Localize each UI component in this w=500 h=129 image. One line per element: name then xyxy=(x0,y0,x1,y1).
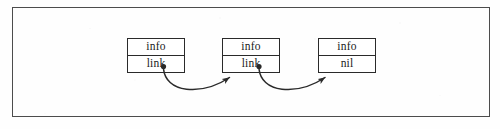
list-node-1: info link xyxy=(127,38,185,73)
node-3-nil-cell: nil xyxy=(319,56,375,72)
node-2-info-cell: info xyxy=(223,39,279,56)
list-node-2: info link xyxy=(222,38,280,73)
figure-canvas: info link info link info nil xyxy=(0,0,500,129)
list-node-3: info nil xyxy=(318,38,376,73)
node-3-info-cell: info xyxy=(319,39,375,56)
node-2-link-cell: link xyxy=(223,56,279,72)
node-1-info-cell: info xyxy=(128,39,184,56)
node-1-link-cell: link xyxy=(128,56,184,72)
